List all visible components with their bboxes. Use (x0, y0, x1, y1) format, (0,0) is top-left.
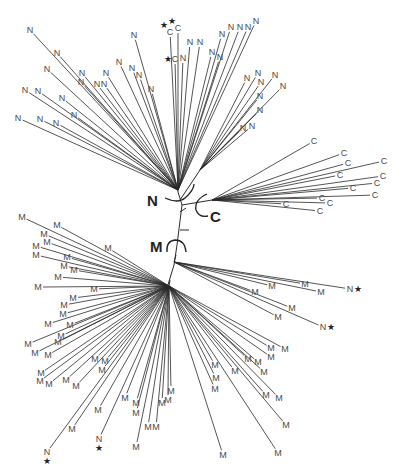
leaf-label-m: M (267, 352, 275, 362)
leaf-label-n: N (245, 22, 252, 32)
leaf-label-c: C (317, 206, 324, 216)
leaf-label-m: M (31, 348, 39, 358)
leaf-label-n: N (94, 79, 101, 89)
leaf-label-n: N (35, 86, 42, 96)
leaf-label-n: N (320, 322, 327, 332)
leaf-label-m: M (53, 220, 61, 230)
tree-branch (27, 219, 170, 286)
tree-branch (127, 286, 169, 393)
tree-branch (169, 286, 232, 367)
leaf-label-n: N (136, 70, 143, 80)
leaf-label-m: M (274, 448, 282, 458)
tree-branch (175, 64, 178, 190)
tree-branch (169, 286, 276, 394)
leaf-label-m: M (132, 442, 140, 452)
leaf-label-n: N (78, 77, 85, 87)
leaf-label-c: C (283, 199, 290, 209)
leaf-label-m: M (211, 384, 219, 394)
leaf-label-n: N (180, 53, 187, 63)
tree-branch (178, 47, 199, 190)
leaf-label-n: N (197, 37, 204, 47)
leaf-label-n: N (148, 84, 155, 94)
tree-leaf-labels: NNNNNNNNNNNNNNNNNNNNC★C★C★NNNNNNNNNNNNNN… (15, 16, 388, 466)
leaf-label-m: M (317, 287, 325, 297)
tree-branch (66, 286, 170, 334)
leaf-label-m: M (121, 393, 129, 403)
leaf-label-m: M (34, 282, 42, 292)
leaf-label-m: M (66, 320, 74, 330)
leaf-label-m: M (104, 243, 112, 253)
leaf-label-n: N (240, 123, 247, 133)
leaf-label-n: N (217, 52, 224, 62)
leaf-label-m: M (44, 350, 52, 360)
leaf-label-m: M (132, 408, 140, 418)
leaf-label-n: N (257, 105, 264, 115)
leaf-label-n: N (280, 81, 287, 91)
leaf-label-m: M (282, 420, 290, 430)
leaf-label-m: M (54, 272, 62, 282)
leaf-label-c: C (381, 156, 388, 166)
leaf-label-m: M (98, 365, 106, 375)
leaf-label-m: M (260, 367, 268, 377)
leaf-label-n: N (101, 79, 108, 89)
tree-branch (109, 77, 178, 190)
tree-branch (100, 88, 178, 190)
leaf-label-m: M (219, 450, 227, 460)
leaf-label-n: N (53, 118, 60, 128)
phylogenetic-tree-figure: NNNNNNNNNNNNNNNNNNNNC★C★C★NNNNNNNNNNNNNN… (0, 0, 404, 472)
leaf-label-n: N (244, 73, 251, 83)
leaf-label-m: M (301, 279, 309, 289)
leaf-label-n: N (37, 114, 44, 124)
leaf-label-m: M (152, 422, 160, 432)
star-marker-icon: ★ (354, 284, 362, 294)
star-marker-icon: ★ (95, 443, 103, 453)
leaf-label-c: C (374, 178, 381, 188)
leaf-label-c: C (311, 136, 318, 146)
leaf-label-n: N (257, 91, 264, 101)
leaf-label-m: M (274, 312, 282, 322)
leaf-label-c: C (350, 183, 357, 193)
leaf-label-n: N (237, 22, 244, 32)
tree-branch (178, 63, 183, 190)
leaf-label-m: M (211, 360, 219, 370)
clade-m-label: M (150, 238, 163, 255)
leaf-label-c: C (319, 193, 326, 203)
leaf-label-m: M (44, 319, 52, 329)
clade-c-label: C (210, 208, 221, 225)
star-marker-icon: ★ (164, 54, 172, 64)
leaf-label-m: M (70, 265, 78, 275)
leaf-label-c: C (345, 158, 352, 168)
tree-branch (169, 286, 254, 359)
leaf-label-m: M (281, 344, 289, 354)
star-marker-icon: ★ (327, 322, 335, 332)
tree-branch (212, 162, 379, 200)
leaf-label-c: C (337, 170, 344, 180)
leaf-label-m: M (262, 390, 270, 400)
leaf-label-n: N (103, 68, 110, 78)
star-marker-icon: ★ (168, 16, 176, 26)
star-marker-icon: ★ (160, 20, 168, 30)
leaf-label-n: N (347, 284, 354, 294)
tree-branch (169, 286, 171, 386)
leaf-label-m: M (268, 281, 276, 291)
tree-branch (70, 286, 169, 377)
leaf-label-n: N (129, 63, 136, 73)
leaf-label-m: M (32, 250, 40, 260)
leaf-label-m: M (45, 379, 53, 389)
tree-branch (174, 262, 345, 288)
leaf-label-m: M (254, 357, 262, 367)
leaf-label-n: N (209, 47, 216, 57)
leaf-label-m: M (68, 424, 76, 434)
leaf-label-m: M (212, 373, 220, 383)
tree-branch (169, 286, 213, 384)
leaf-label-n: N (258, 77, 265, 87)
leaf-label-n: N (253, 16, 260, 26)
leaf-label-n: N (54, 48, 61, 58)
tree-branch (174, 262, 267, 285)
leaf-label-m: M (60, 261, 68, 271)
leaf-label-m: M (164, 395, 172, 405)
leaf-label-n: N (116, 57, 123, 67)
leaf-label-m: M (275, 393, 283, 403)
leaf-label-n: N (27, 25, 34, 35)
leaf-label-m: M (62, 375, 70, 385)
